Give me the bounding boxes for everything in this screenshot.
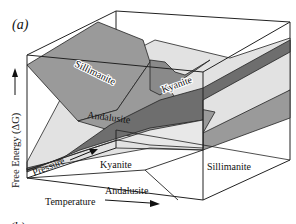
base-andalusite-label: Andalusite [105, 185, 149, 196]
temperature-arrow [105, 200, 160, 207]
free-energy-arrow [12, 68, 18, 95]
panel-b-label: (b) [10, 219, 25, 224]
temperature-axis-label: Temperature [45, 196, 96, 207]
phase-diagram-3d: (a) (b) Free Energy (ΔG) Pressure Temper… [0, 0, 296, 224]
panel-a-label: (a) [12, 17, 29, 33]
base-kyanite-label: Kyanite [100, 159, 132, 170]
free-energy-axis-label: Free Energy (ΔG) [10, 112, 22, 188]
base-sillimanite-label: Sillimanite [207, 161, 251, 172]
